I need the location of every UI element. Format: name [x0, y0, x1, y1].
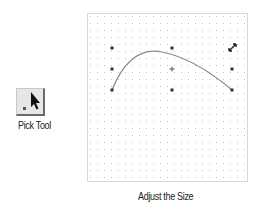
- resize-handle: [111, 89, 114, 92]
- resize-handle: [171, 89, 174, 92]
- resize-handle: [231, 89, 234, 92]
- pick-tool-label: Pick Tool: [18, 119, 51, 131]
- drawing-canvas[interactable]: [87, 13, 248, 182]
- resize-handle: [111, 68, 114, 71]
- pick-arrow-icon: [17, 89, 44, 115]
- resize-handle: [171, 47, 174, 50]
- resize-handle: [231, 68, 234, 71]
- canvas-border: [88, 14, 248, 182]
- canvas-drawing: [87, 13, 248, 182]
- pick-tool-button[interactable]: [16, 88, 45, 116]
- adjust-size-caption: Adjust the Size: [138, 190, 193, 202]
- resize-handle: [111, 47, 114, 50]
